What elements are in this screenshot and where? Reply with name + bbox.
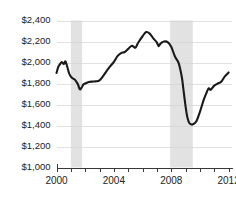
y-tick-label-2400: $2,400 (21, 14, 50, 25)
line-chart: $2,400$2,200$2,000$1,800$1,600$1,400$1,2… (0, 0, 236, 205)
x-axis-tick-labels: 2000200420082012 (45, 175, 236, 186)
y-axis-tick-labels: $2,400$2,200$2,000$1,800$1,600$1,400$1,2… (21, 14, 50, 172)
axis-lines (58, 164, 233, 169)
y-tick-label-2200: $2,200 (21, 35, 50, 46)
x-tick-label-2000: 2000 (45, 175, 68, 186)
series-line-value (57, 32, 229, 125)
x-tick-label-2008: 2008 (160, 175, 183, 186)
y-tick-label-1800: $1,800 (21, 77, 50, 88)
y-tick-label-1600: $1,600 (21, 98, 50, 109)
y-tick-label-2000: $2,000 (21, 56, 50, 67)
y-tick-label-1400: $1,400 (21, 119, 50, 130)
data-series-line (57, 32, 229, 125)
x-tick-label-2012: 2012 (218, 175, 236, 186)
x-tick-label-2004: 2004 (103, 175, 126, 186)
chart-canvas: $2,400$2,200$2,000$1,800$1,600$1,400$1,2… (0, 0, 236, 205)
y-tick-label-1200: $1,200 (21, 140, 50, 151)
y-tick-label-1000: $1,000 (21, 161, 50, 172)
